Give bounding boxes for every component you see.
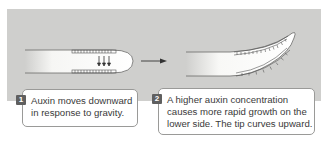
stage-1-number-badge: 1: [16, 95, 26, 105]
horizontal-tip-illustration: [25, 50, 133, 73]
stage-2-line-3: lower side. The tip curves upward.: [167, 118, 310, 130]
stage-2-callout: A higher auxin concentration causes more…: [158, 88, 315, 135]
stage-1-line-2: in response to gravity.: [31, 107, 131, 119]
stage-2-line-1: A higher auxin concentration: [167, 94, 310, 106]
stage-1-callout: Auxin moves downward in response to grav…: [22, 89, 138, 127]
right-arrow-icon: [141, 59, 167, 64]
stage-2-number-badge: 2: [152, 94, 162, 104]
stage-2-line-2: causes more rapid growth on the: [167, 106, 310, 118]
stage-1-line-1: Auxin moves downward: [31, 95, 131, 107]
curved-tip-illustration: [186, 32, 295, 76]
